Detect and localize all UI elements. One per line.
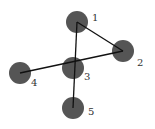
node-label-2: 2	[137, 57, 143, 68]
node-label-5: 5	[88, 106, 94, 117]
graph-diagram: 12345	[0, 0, 155, 129]
node-label-3: 3	[84, 71, 90, 82]
node-label-1: 1	[92, 12, 98, 23]
edge-1-2	[77, 22, 123, 51]
node-label-4: 4	[31, 77, 37, 88]
